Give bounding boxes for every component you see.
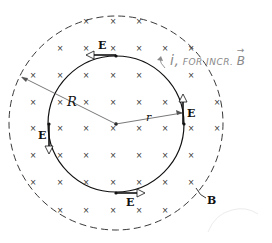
field-into-page-mark: × bbox=[188, 72, 195, 80]
field-into-page-mark: × bbox=[83, 179, 90, 187]
field-into-page-mark: × bbox=[30, 72, 37, 80]
field-into-page-mark: × bbox=[57, 125, 64, 133]
label-E-right: E bbox=[187, 108, 195, 119]
field-into-page-mark: × bbox=[83, 207, 90, 215]
field-into-page-mark: × bbox=[30, 179, 37, 187]
field-into-page-mark: × bbox=[162, 45, 169, 53]
field-into-page-mark: × bbox=[136, 179, 143, 187]
field-into-page-mark: × bbox=[110, 72, 117, 80]
annotation-vector-B: B → bbox=[237, 54, 246, 68]
annotation-i: i, bbox=[170, 52, 179, 68]
field-into-page-mark: × bbox=[136, 207, 143, 215]
field-into-page-mark: × bbox=[110, 99, 117, 107]
field-into-page-mark: × bbox=[136, 45, 143, 53]
field-into-page-mark: × bbox=[136, 18, 143, 26]
field-into-page-mark: × bbox=[214, 99, 221, 107]
field-into-page-mark: × bbox=[30, 125, 37, 133]
field-into-page-mark: × bbox=[57, 152, 64, 160]
field-into-page-mark: × bbox=[57, 72, 64, 80]
field-into-page-mark: × bbox=[136, 125, 143, 133]
label-E-bottom: E bbox=[126, 197, 134, 208]
label-B: B bbox=[207, 195, 216, 206]
field-into-page-mark: × bbox=[188, 152, 195, 160]
field-into-page-mark: × bbox=[162, 152, 169, 160]
field-into-page-mark: × bbox=[188, 125, 195, 133]
field-into-page-mark: × bbox=[162, 125, 169, 133]
field-into-page-mark: × bbox=[110, 125, 117, 133]
field-into-page-mark: × bbox=[110, 18, 117, 26]
pencil-scribble bbox=[208, 209, 258, 232]
field-into-page-mark: × bbox=[214, 125, 221, 133]
field-into-page-mark: × bbox=[110, 207, 117, 215]
field-into-page-mark: × bbox=[30, 152, 37, 160]
field-into-page-mark: × bbox=[136, 99, 143, 107]
label-r: r bbox=[146, 112, 151, 123]
field-into-page-mark: × bbox=[83, 45, 90, 53]
B-leader-line bbox=[196, 188, 206, 198]
annotation-text: FOR INCR. bbox=[183, 57, 234, 67]
field-into-page-mark: × bbox=[57, 99, 64, 107]
field-into-page-mark: × bbox=[110, 45, 117, 53]
field-into-page-mark: × bbox=[83, 18, 90, 26]
handwritten-annotation: i, FOR INCR. B → bbox=[170, 52, 246, 68]
field-into-page-mark: × bbox=[57, 207, 64, 215]
field-into-page-mark: × bbox=[83, 99, 90, 107]
field-into-page-mark: × bbox=[162, 207, 169, 215]
field-into-page-mark: × bbox=[30, 99, 37, 107]
label-E-left: E bbox=[38, 130, 46, 141]
field-into-page-mark: × bbox=[83, 72, 90, 80]
field-into-page-mark: × bbox=[136, 152, 143, 160]
field-into-page-mark: × bbox=[110, 179, 117, 187]
field-into-page-mark: × bbox=[188, 179, 195, 187]
field-into-page-mark: × bbox=[110, 152, 117, 160]
field-into-page-mark: × bbox=[83, 125, 90, 133]
E-arrow-right bbox=[179, 94, 187, 124]
field-into-page-mark: × bbox=[57, 179, 64, 187]
handwritten-arrowhead bbox=[157, 56, 163, 61]
field-into-page-mark: × bbox=[162, 179, 169, 187]
label-R: R bbox=[67, 95, 77, 108]
label-E-top: E bbox=[98, 40, 106, 51]
field-into-page-mark: × bbox=[136, 72, 143, 80]
field-into-page-mark: × bbox=[162, 99, 169, 107]
field-into-page-mark: × bbox=[57, 45, 64, 53]
field-into-page-mark: × bbox=[83, 152, 90, 160]
